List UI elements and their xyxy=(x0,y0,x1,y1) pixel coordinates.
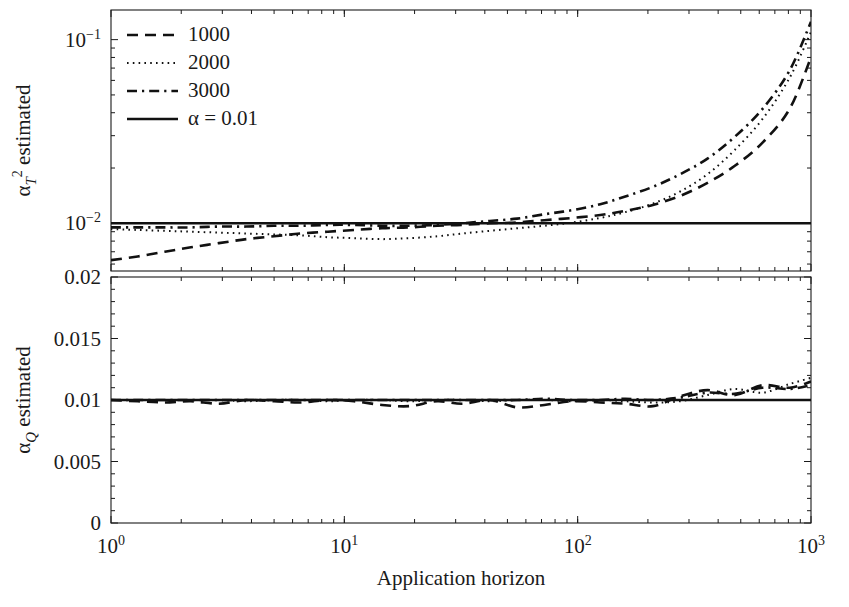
legend-item-2000-label: 2000 xyxy=(188,50,230,74)
legend-item-1000-label: 1000 xyxy=(188,22,230,46)
bottom-panel-series-group xyxy=(111,378,811,408)
xtick-label-1e0: 100 xyxy=(97,533,125,558)
bottom-ytick-label-4: 0 xyxy=(91,511,102,535)
legend-item-3000-label: 3000 xyxy=(188,78,230,102)
bottom-ytick-label-3: 0.005 xyxy=(54,450,101,474)
figure-container: 10−110−20.020.0150.010.0050100101102103A… xyxy=(0,0,849,607)
bottom-y-axis-title: αQ estimated xyxy=(11,346,39,454)
bottom-ytick-label-0: 0.02 xyxy=(64,265,101,289)
bottom-series-1000 xyxy=(111,382,811,408)
xtick-label-1e3: 103 xyxy=(797,533,825,558)
top-ytick-label-1e-2: 10−2 xyxy=(65,210,101,235)
legend-item-alpha-label: α = 0.01 xyxy=(188,106,258,130)
bottom-ytick-label-2: 0.01 xyxy=(64,388,101,412)
top-y-axis-title: αT2 estimated xyxy=(10,84,39,197)
top-ytick-label-1e-1: 10−1 xyxy=(65,27,101,52)
bottom-series-3000 xyxy=(111,385,811,400)
x-axis-title: Application horizon xyxy=(377,566,546,590)
xtick-label-1e2: 102 xyxy=(564,533,592,558)
chart-svg: 10−110−20.020.0150.010.0050100101102103A… xyxy=(0,0,849,607)
bottom-ytick-label-1: 0.015 xyxy=(54,327,101,351)
xtick-label-1e1: 101 xyxy=(330,533,358,558)
